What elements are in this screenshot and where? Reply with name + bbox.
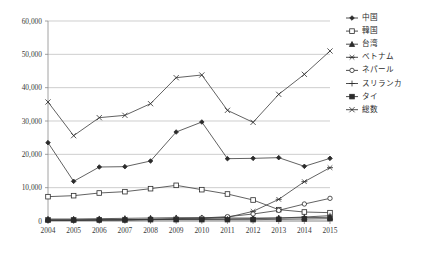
data-point xyxy=(276,217,281,222)
legend-item-8[interactable]: 総数 xyxy=(346,104,378,114)
legend-marker xyxy=(350,16,355,21)
data-point xyxy=(97,218,102,223)
legend-label: スリランカ xyxy=(362,79,402,88)
legend-item-4[interactable]: ベトナム xyxy=(346,52,394,61)
legend-item-5[interactable]: ネパール xyxy=(346,65,394,74)
x-axis-tick-label: 2009 xyxy=(169,226,184,235)
data-point xyxy=(148,101,153,106)
x-axis-tick-label: 2015 xyxy=(323,226,338,235)
x-axis-tick-label: 2008 xyxy=(143,226,158,235)
y-axis-tick-labels: 010,00020,00030,00040,00050,00060,000 xyxy=(22,17,43,226)
x-axis-tick-labels: 2004200520062007200820092010201120122013… xyxy=(41,226,338,235)
x-axis-tick-label: 2005 xyxy=(66,226,81,235)
data-point xyxy=(328,156,333,161)
x-axis-tick-label: 2010 xyxy=(194,226,209,235)
data-point xyxy=(328,196,332,200)
data-point xyxy=(225,217,230,222)
y-axis-tick-label: 30,000 xyxy=(22,117,43,126)
y-axis-tick-label: 10,000 xyxy=(22,183,43,192)
data-point xyxy=(250,120,255,125)
x-axis-tick-label: 2004 xyxy=(41,226,56,235)
data-point xyxy=(302,164,307,169)
y-axis-tick-label: 40,000 xyxy=(22,83,43,92)
data-point xyxy=(276,92,281,97)
data-point xyxy=(148,217,153,222)
series-line xyxy=(48,51,330,136)
data-point xyxy=(328,216,333,221)
legend-label: 中国 xyxy=(362,12,378,22)
legend-item-1[interactable]: 中国 xyxy=(346,12,378,22)
data-point xyxy=(225,192,230,197)
series-line xyxy=(48,122,330,181)
data-point xyxy=(251,198,256,203)
legend-label: 台湾 xyxy=(362,38,378,48)
y-axis-tick-label: 50,000 xyxy=(22,50,43,59)
line-chart: 010,00020,00030,00040,00050,00060,000 20… xyxy=(0,0,439,262)
legend-label: ネパール xyxy=(362,65,394,74)
legend-label: タイ xyxy=(362,92,378,101)
data-point xyxy=(174,217,179,222)
x-axis-tick-label: 2012 xyxy=(246,226,261,235)
data-point xyxy=(174,183,179,188)
data-point xyxy=(97,165,102,170)
data-point xyxy=(123,164,128,169)
data-point xyxy=(251,212,255,216)
y-axis-tick-label: 60,000 xyxy=(22,17,43,26)
data-point xyxy=(276,197,282,202)
x-axis-tick-label: 2013 xyxy=(271,226,286,235)
series-line xyxy=(48,185,330,212)
legend-marker xyxy=(349,81,355,87)
data-point xyxy=(200,187,205,192)
data-point xyxy=(46,194,51,199)
legend-label: 総数 xyxy=(362,104,378,114)
data-point xyxy=(302,210,307,215)
legend-label: 韓国 xyxy=(362,25,378,35)
data-point xyxy=(46,218,51,223)
chart-legend: 中国韓国台湾ベトナムネパールスリランカタイ総数 xyxy=(346,12,402,114)
data-point xyxy=(301,179,307,184)
data-point xyxy=(251,217,256,222)
data-point xyxy=(123,218,128,223)
x-axis-tick-label: 2007 xyxy=(118,226,133,235)
data-point xyxy=(200,217,205,222)
x-axis-tick-label: 2014 xyxy=(297,226,312,235)
data-point xyxy=(276,155,281,160)
series-8 xyxy=(45,48,332,138)
legend-item-6[interactable]: スリランカ xyxy=(346,79,402,88)
y-axis-tick-label: 0 xyxy=(38,217,42,226)
data-point xyxy=(327,165,333,170)
data-point xyxy=(302,217,307,222)
legend-item-3[interactable]: 台湾 xyxy=(346,38,378,48)
data-point xyxy=(277,208,281,212)
series-line xyxy=(48,198,330,220)
data-point xyxy=(302,72,307,77)
data-point xyxy=(302,202,306,206)
data-point xyxy=(97,191,102,196)
data-point xyxy=(46,140,51,145)
data-point xyxy=(327,48,332,53)
legend-marker xyxy=(350,68,354,72)
data-point xyxy=(71,193,76,198)
data-point xyxy=(251,156,256,161)
data-point xyxy=(71,218,76,223)
series-1 xyxy=(46,120,333,184)
x-axis-tick-label: 2006 xyxy=(92,226,107,235)
data-point xyxy=(71,179,76,184)
legend-marker xyxy=(350,94,355,99)
y-axis-tick-label: 20,000 xyxy=(22,150,43,159)
data-point xyxy=(123,189,128,194)
legend-label: ベトナム xyxy=(362,52,394,61)
plot-gridlines xyxy=(48,21,330,221)
data-point xyxy=(225,108,230,113)
legend-item-7[interactable]: タイ xyxy=(346,92,378,101)
legend-marker xyxy=(350,29,355,34)
x-axis-tick-label: 2011 xyxy=(220,226,235,235)
data-series-group xyxy=(45,48,333,223)
chart-canvas: 010,00020,00030,00040,00050,00060,000 20… xyxy=(0,0,439,262)
legend-marker xyxy=(349,55,355,60)
legend-item-2[interactable]: 韓国 xyxy=(346,25,378,35)
data-point xyxy=(148,186,153,191)
data-point xyxy=(71,133,76,138)
